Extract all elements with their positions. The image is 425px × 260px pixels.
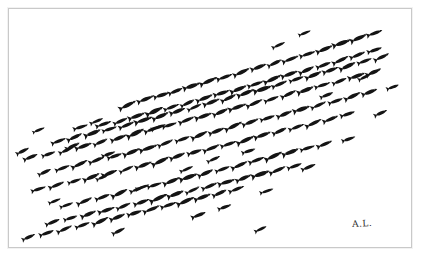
fish-marker <box>356 56 373 67</box>
fish-marker <box>300 162 317 173</box>
fish-marker <box>115 201 132 212</box>
fish-marker <box>22 151 39 163</box>
fish-marker <box>21 232 36 243</box>
fish-marker <box>319 90 334 100</box>
fish-marker <box>217 176 236 188</box>
fish-marker <box>360 86 378 98</box>
fish-marker <box>228 184 246 195</box>
fish-marker <box>349 31 368 45</box>
fish-marker <box>54 163 71 174</box>
fish-layer <box>15 28 400 243</box>
fish-marker <box>207 125 225 137</box>
fish-marker <box>232 66 251 80</box>
fish-marker <box>235 133 256 147</box>
fish-marker <box>64 140 81 152</box>
fish-marker <box>126 208 143 219</box>
fish-marker <box>373 108 388 119</box>
fish-marker <box>82 171 101 185</box>
fish-marker <box>122 146 141 160</box>
fish-marker <box>74 220 91 231</box>
fish-marker <box>250 168 271 181</box>
fish-marker <box>168 150 186 162</box>
fish-marker <box>157 137 175 149</box>
fish-marker <box>74 140 93 152</box>
fish-marker <box>223 119 243 133</box>
artboard: A.L. School of Fish <box>0 0 425 260</box>
fish-marker <box>79 208 97 221</box>
fish-marker <box>92 136 109 148</box>
fish-marker <box>48 179 66 191</box>
fish-marker <box>214 164 231 174</box>
fish-marker <box>349 49 367 61</box>
drawing-canvas <box>9 9 411 247</box>
fish-marker <box>167 85 184 97</box>
fish-marker <box>202 142 221 155</box>
fish-marker <box>310 99 328 111</box>
fish-marker <box>216 72 234 83</box>
fish-marker <box>220 139 238 150</box>
fish-marker <box>97 204 116 216</box>
fish-marker <box>175 194 196 208</box>
fish-marker <box>162 175 181 188</box>
fish-marker <box>196 167 214 180</box>
fish-marker <box>174 134 191 145</box>
fish-marker <box>138 142 158 154</box>
fish-marker <box>132 196 150 208</box>
fish-marker <box>117 98 137 112</box>
fish-marker <box>373 51 391 64</box>
fish-marker <box>50 136 67 147</box>
fish-marker <box>182 80 201 93</box>
fish-marker <box>70 158 89 172</box>
fish-marker <box>72 122 89 132</box>
fish-marker <box>280 88 298 101</box>
fish-marker <box>341 134 356 144</box>
fish-marker <box>263 94 280 105</box>
fish-marker <box>366 45 383 55</box>
fish-marker <box>32 126 46 135</box>
fish-marker <box>41 149 57 159</box>
fish-marker <box>316 138 334 150</box>
fish-marker <box>190 209 207 221</box>
fish-marker <box>48 197 62 206</box>
fish-marker <box>241 146 257 156</box>
fish-marker <box>339 109 356 119</box>
fish-marker <box>347 70 366 82</box>
fish-marker <box>268 164 287 177</box>
fish-marker <box>227 101 247 114</box>
fish-marker <box>271 125 288 137</box>
fish-marker <box>56 223 74 235</box>
fish-marker <box>259 113 276 123</box>
fish-marker <box>321 113 339 125</box>
fish-marker <box>83 127 102 140</box>
fish-marker <box>245 97 264 110</box>
fish-marker <box>263 149 284 164</box>
fish-marker <box>314 80 332 91</box>
fish-marker <box>271 40 286 51</box>
fish-marker <box>201 180 219 192</box>
fish-marker <box>234 172 252 184</box>
fish-marker <box>118 164 134 175</box>
fish-marker <box>76 195 94 208</box>
fish-marker <box>247 154 265 166</box>
fish-marker <box>281 53 300 65</box>
fish-marker <box>194 110 213 122</box>
fish-marker <box>211 187 228 199</box>
fish-marker <box>38 228 55 239</box>
fish-marker <box>241 116 260 129</box>
artist-signature: A.L. <box>352 218 373 229</box>
fish-marker <box>166 188 185 201</box>
fish-marker <box>59 200 74 210</box>
fish-marker <box>111 226 126 237</box>
fish-marker <box>136 93 155 106</box>
fish-marker <box>152 90 170 101</box>
fish-marker <box>44 217 61 228</box>
fish-marker <box>94 192 111 203</box>
fish-marker <box>249 61 267 73</box>
fish-marker <box>299 49 317 60</box>
fish-marker <box>125 126 146 141</box>
fish-marker <box>63 213 78 223</box>
fish-marker <box>109 132 127 144</box>
fish-marker <box>296 84 315 97</box>
fish-marker <box>30 184 47 194</box>
fish-marker <box>298 29 312 38</box>
